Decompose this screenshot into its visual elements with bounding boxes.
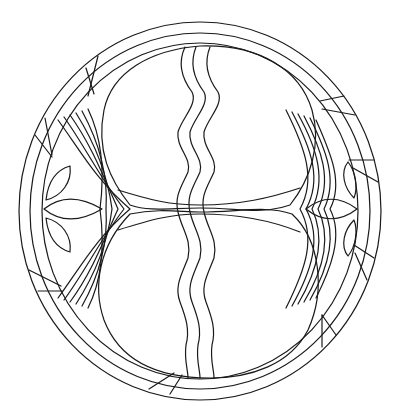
top-oval — [102, 46, 316, 210]
left-chevron-bands — [58, 109, 130, 308]
right-chevron-bands — [286, 110, 336, 308]
mandala-drawing: Circular mandala line drawing with two o… — [0, 0, 401, 420]
left-leaf-motifs — [44, 166, 102, 252]
mandala-svg — [0, 0, 401, 420]
outer-ring — [19, 22, 381, 400]
